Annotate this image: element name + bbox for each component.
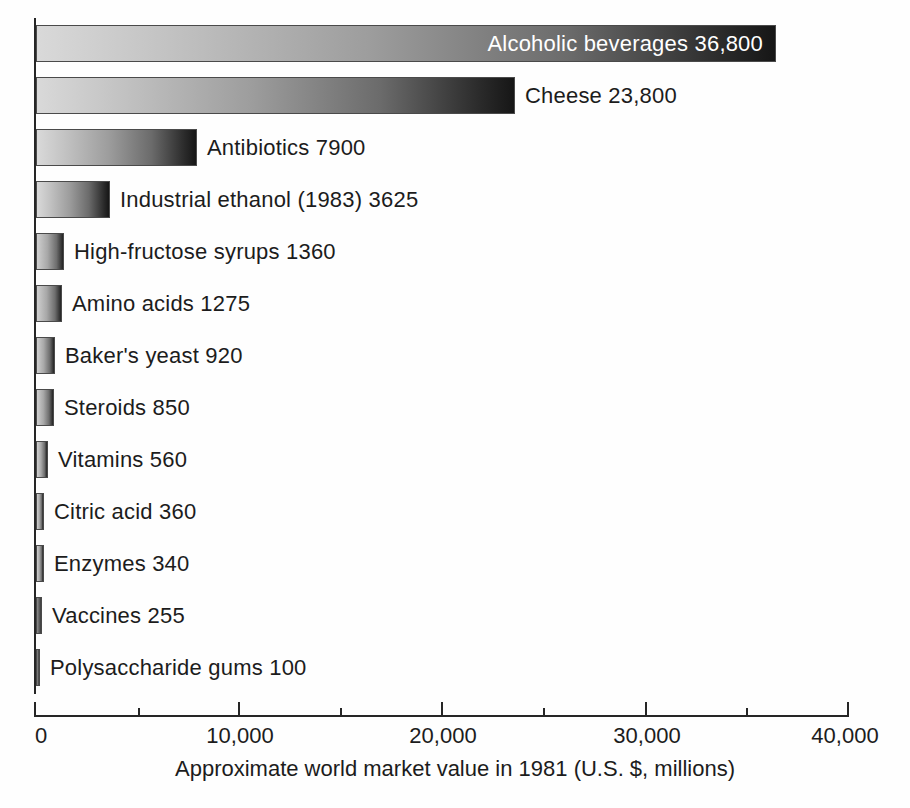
bar-label: High-fructose syrups 1360 [64, 239, 336, 265]
bar-label: Enzymes 340 [44, 551, 190, 577]
x-axis: 0 10,000 20,000 30,000 40,000 Approximat… [0, 690, 910, 808]
bar-vitamins [36, 441, 48, 478]
bar-row: Industrial ethanol (1983) 3625 [36, 181, 418, 218]
x-tick-label: 0 [35, 723, 47, 749]
x-tick-minor [340, 708, 342, 717]
bar-label: Vitamins 560 [48, 447, 187, 473]
bar-vaccines [36, 597, 42, 634]
x-tick-label: 10,000 [206, 723, 273, 749]
bar-row: Polysaccharide gums 100 [36, 649, 307, 686]
bar-citric-acid [36, 493, 44, 530]
x-tick-major [847, 702, 849, 717]
x-tick-minor [746, 708, 748, 717]
x-tick-major [441, 702, 443, 717]
bar-row: Vaccines 255 [36, 597, 185, 634]
bar-row: Amino acids 1275 [36, 285, 250, 322]
bar-bakers-yeast [36, 337, 55, 374]
x-tick-label: 40,000 [811, 723, 878, 749]
bar-row: Vitamins 560 [36, 441, 187, 478]
x-tick-major [238, 702, 240, 717]
bar-row: Enzymes 340 [36, 545, 190, 582]
x-tick-label: 20,000 [409, 723, 476, 749]
x-tick-major [645, 702, 647, 717]
bar-label: Antibiotics 7900 [197, 135, 366, 161]
bar-steroids [36, 389, 54, 426]
bar-row: High-fructose syrups 1360 [36, 233, 336, 270]
bar-row: Baker's yeast 920 [36, 337, 243, 374]
bar-enzymes [36, 545, 44, 582]
bar-row: Cheese 23,800 [36, 77, 677, 114]
x-tick-minor [543, 708, 545, 717]
x-axis-title: Approximate world market value in 1981 (… [0, 756, 910, 782]
bar-label: Citric acid 360 [44, 499, 196, 525]
bar-label: Vaccines 255 [42, 603, 185, 629]
x-tick-major [34, 702, 36, 717]
plot-area: Alcoholic beverages 36,800 Cheese 23,800… [0, 0, 910, 690]
bar-chart: Alcoholic beverages 36,800 Cheese 23,800… [0, 0, 910, 808]
bar-label: Baker's yeast 920 [55, 343, 243, 369]
x-tick-label: 30,000 [613, 723, 680, 749]
bar-high-fructose-syrups [36, 233, 64, 270]
bar-label: Amino acids 1275 [62, 291, 250, 317]
bar-row: Citric acid 360 [36, 493, 196, 530]
bar-alcoholic-beverages: Alcoholic beverages 36,800 [36, 25, 776, 62]
bar-industrial-ethanol [36, 181, 110, 218]
bar-label: Polysaccharide gums 100 [40, 655, 307, 681]
bar-row: Antibiotics 7900 [36, 129, 366, 166]
bar-label: Industrial ethanol (1983) 3625 [110, 187, 418, 213]
bar-row: Alcoholic beverages 36,800 [36, 25, 776, 62]
bar-polysaccharide-gums [36, 649, 40, 686]
bar-antibiotics [36, 129, 197, 166]
bar-row: Steroids 850 [36, 389, 190, 426]
bar-cheese [36, 77, 515, 114]
x-tick-minor [138, 708, 140, 717]
bar-label: Steroids 850 [54, 395, 190, 421]
bar-label: Cheese 23,800 [515, 83, 677, 109]
bar-label: Alcoholic beverages 36,800 [488, 31, 764, 57]
bar-amino-acids [36, 285, 62, 322]
